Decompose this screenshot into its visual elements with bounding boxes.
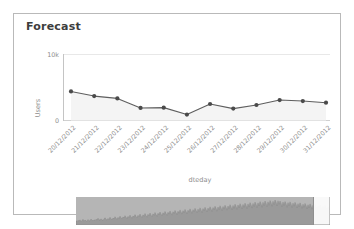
data-point[interactable] <box>115 96 119 100</box>
data-point[interactable] <box>278 98 282 102</box>
data-point[interactable] <box>208 102 212 106</box>
y-axis-title: Users <box>34 98 42 117</box>
data-point[interactable] <box>324 101 328 105</box>
data-point[interactable] <box>254 103 258 107</box>
area-fill <box>71 91 326 120</box>
x-axis-title: dteday <box>189 176 212 184</box>
y-tick-label-10k: 10k <box>47 51 59 59</box>
data-point[interactable] <box>92 94 96 98</box>
y-tick-label-0: 0 <box>55 117 59 125</box>
data-point[interactable] <box>185 112 189 116</box>
range-selector[interactable] <box>76 197 330 225</box>
forecast-chart[interactable]: Users 10k 0 20/12/201221/12/201222/12/20… <box>14 36 340 186</box>
x-axis-tick-labels: 20/12/201221/12/201222/12/201223/12/2012… <box>47 124 332 154</box>
forecast-card: Forecast Users 10k 0 20/12/201221/12/201… <box>13 13 341 215</box>
chart-svg[interactable]: Users 10k 0 20/12/201221/12/201222/12/20… <box>14 36 340 186</box>
range-selector-svg[interactable] <box>76 197 330 225</box>
data-point[interactable] <box>162 106 166 110</box>
data-point[interactable] <box>301 99 305 103</box>
page-title: Forecast <box>26 20 81 33</box>
range-selector-window[interactable] <box>313 197 330 225</box>
data-point[interactable] <box>69 89 73 93</box>
data-point[interactable] <box>138 106 142 110</box>
data-point[interactable] <box>231 107 235 111</box>
